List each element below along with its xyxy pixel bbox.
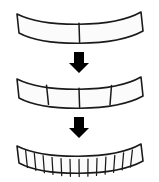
arc-divider-stage3-9 [97,158,98,175]
arc-divider-stage3-5 [61,159,62,176]
down-arrow-icon [69,117,89,138]
stage-3-arc-fourteen-segments [17,144,143,177]
arc-divider-stage3-10 [105,157,106,174]
stage-1-arc-two-segments [17,12,143,43]
diagram-root [0,0,159,182]
stage-2-arc-four-segments [17,77,143,108]
arrow-stage2-to-stage3 [69,117,89,138]
arrow-stage1-to-stage2 [69,52,89,73]
arc-divider-stage2-2 [79,88,80,107]
down-arrow-icon [69,52,89,73]
arc-divider-stage1-1 [79,23,80,42]
diagram-canvas [0,0,159,182]
